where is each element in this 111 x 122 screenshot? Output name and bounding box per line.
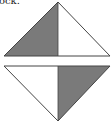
top-triangle [4,2,110,56]
split-diamond-diagram [0,0,111,122]
bottom-triangle [4,66,110,121]
